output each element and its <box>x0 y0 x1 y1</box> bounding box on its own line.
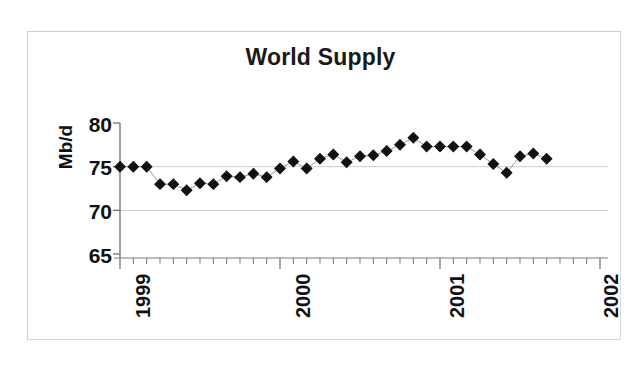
data-point-marker <box>541 154 551 164</box>
data-point-marker <box>368 150 378 160</box>
data-point-marker <box>408 133 418 143</box>
x-axis-ticks <box>120 258 600 269</box>
data-point-marker <box>355 151 365 161</box>
data-point-marker <box>288 156 298 166</box>
data-point-marker <box>501 168 511 178</box>
chart-figure: World Supply Mb/d 80 75 70 65 1999 2000 … <box>0 0 641 367</box>
data-point-marker <box>515 151 525 161</box>
data-point-marker <box>115 161 125 171</box>
data-point-marker <box>181 185 191 195</box>
data-point-marker <box>341 157 351 167</box>
data-point-marker <box>248 168 258 178</box>
data-point-marker <box>301 163 311 173</box>
data-point-marker <box>448 141 458 151</box>
series-markers <box>115 133 552 196</box>
data-point-marker <box>435 141 445 151</box>
data-point-marker <box>141 161 151 171</box>
plot-area <box>0 0 641 367</box>
data-point-marker <box>315 154 325 164</box>
data-point-marker <box>261 172 271 182</box>
data-point-marker <box>128 161 138 171</box>
data-point-marker <box>528 148 538 158</box>
data-point-marker <box>488 159 498 169</box>
gridlines <box>120 167 608 211</box>
data-point-marker <box>421 141 431 151</box>
data-point-marker <box>221 171 231 181</box>
data-point-marker <box>235 172 245 182</box>
data-point-marker <box>381 146 391 156</box>
data-point-marker <box>195 178 205 188</box>
data-point-marker <box>208 179 218 189</box>
data-point-marker <box>328 149 338 159</box>
data-point-marker <box>395 140 405 150</box>
series-connector-line <box>120 138 547 190</box>
data-point-marker <box>475 149 485 159</box>
data-point-marker <box>275 163 285 173</box>
data-point-marker <box>168 179 178 189</box>
y-axis-ticks <box>113 123 120 254</box>
data-point-marker <box>155 179 165 189</box>
data-point-marker <box>461 141 471 151</box>
